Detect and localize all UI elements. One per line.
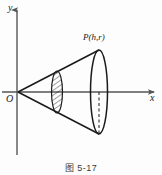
origin-label: O <box>6 94 13 104</box>
y-axis-label: y <box>8 3 12 13</box>
figure-container: y x O P(h,r) 图 5-17 <box>0 0 162 175</box>
x-axis-label: x <box>150 93 154 103</box>
figure-caption: 图 5-17 <box>0 161 162 174</box>
figure-caption-number: 5-17 <box>77 163 97 173</box>
cone-diagram-svg <box>0 0 162 175</box>
point-p-label: P(h,r) <box>83 33 105 42</box>
figure-caption-prefix: 图 <box>65 163 75 173</box>
